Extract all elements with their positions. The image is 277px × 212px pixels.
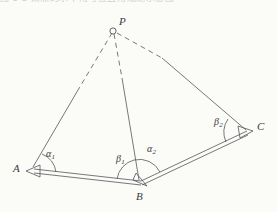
vertex-label-P: P bbox=[119, 15, 126, 27]
sight-line-PB-dashed bbox=[114, 34, 122, 78]
angle-arc-alpha2 bbox=[134, 159, 160, 172]
geometry-diagram bbox=[0, 0, 277, 212]
vertex-label-A: A bbox=[13, 162, 20, 174]
angle-subscript-beta1: 1 bbox=[121, 158, 125, 166]
traverse-segment-AB bbox=[34, 169, 141, 185]
angle-symbol-alpha2: α bbox=[147, 143, 152, 154]
figure-canvas: 图 5-2 某点的水平角与竖直角观测示意图 bbox=[0, 0, 277, 212]
angle-label-alpha1: α1 bbox=[46, 148, 55, 161]
sight-line-PC-solid bbox=[162, 58, 246, 130]
angle-subscript-beta2: 2 bbox=[219, 121, 223, 129]
vertex-label-B: B bbox=[136, 190, 143, 202]
traverse-segment-BC bbox=[141, 131, 248, 185]
sight-line-PA-dashed bbox=[78, 33, 112, 90]
angle-subscript-alpha1: 1 bbox=[52, 153, 56, 161]
angle-label-alpha2: α2 bbox=[147, 143, 156, 156]
sight-line-PA-solid bbox=[33, 90, 78, 167]
sight-line-PC-dashed bbox=[117, 33, 162, 58]
vertex-marker-P bbox=[110, 28, 116, 34]
angle-symbol-alpha1: α bbox=[46, 148, 51, 159]
angle-subscript-alpha2: 2 bbox=[153, 148, 157, 156]
vertex-label-C: C bbox=[257, 120, 264, 132]
angle-arc-beta2 bbox=[224, 119, 228, 142]
angle-label-beta1: β1 bbox=[116, 153, 125, 166]
angle-label-beta2: β2 bbox=[214, 116, 223, 129]
